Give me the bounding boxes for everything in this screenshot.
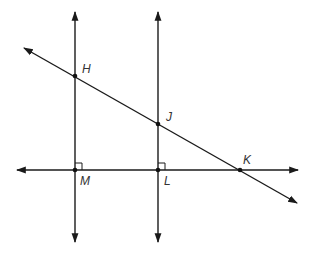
label-H: H — [82, 62, 91, 76]
label-K: K — [243, 153, 252, 167]
point-J — [156, 122, 161, 127]
line-HJK — [24, 48, 297, 203]
label-J: J — [165, 110, 173, 124]
point-K — [238, 168, 243, 173]
point-L — [156, 168, 161, 173]
geometry-diagram: H J K M L — [0, 0, 314, 256]
label-L: L — [164, 174, 171, 188]
point-M — [73, 168, 78, 173]
point-H — [73, 74, 78, 79]
label-M: M — [80, 174, 90, 188]
